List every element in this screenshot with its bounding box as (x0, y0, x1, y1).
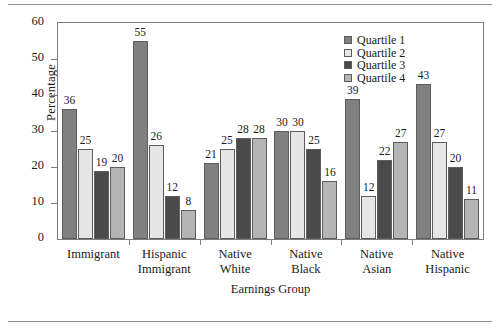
bar-value-label: 11 (466, 184, 477, 196)
bar-value-label: 21 (205, 148, 217, 160)
bar: 27 (393, 142, 408, 239)
bar: 28 (236, 138, 251, 239)
legend-swatch-icon (344, 61, 352, 69)
bar-value-label: 20 (112, 152, 124, 164)
bar: 36 (62, 109, 77, 239)
bar: 20 (448, 167, 463, 239)
x-tick-mark (271, 240, 272, 245)
bar: 39 (345, 99, 360, 239)
bar: 26 (149, 145, 164, 239)
bar: 43 (416, 84, 431, 239)
bar-value-label: 27 (395, 127, 407, 139)
bar: 25 (78, 149, 93, 239)
bar-value-label: 27 (434, 127, 446, 139)
bar: 16 (322, 181, 337, 239)
bar-value-label: 36 (64, 94, 76, 106)
top-rule (8, 4, 492, 5)
bar-value-label: 43 (418, 69, 430, 81)
legend-item: Quartile 3 (344, 59, 405, 72)
bar: 8 (181, 210, 196, 239)
legend-swatch-icon (344, 36, 352, 44)
bottom-rule (8, 321, 492, 322)
bar: 11 (464, 199, 479, 239)
bar: 27 (432, 142, 447, 239)
legend-item: Quartile 4 (344, 72, 405, 85)
y-tick-label: 40 (32, 86, 45, 101)
bar: 25 (220, 149, 235, 239)
bar-group: 36251920 (62, 23, 125, 239)
bar: 12 (165, 196, 180, 239)
bar-value-label: 25 (80, 134, 92, 146)
bar: 21 (204, 163, 219, 239)
y-tick-label: 10 (32, 194, 45, 209)
bar: 55 (133, 41, 148, 239)
bar-value-label: 12 (167, 181, 179, 193)
bar-value-label: 55 (135, 26, 147, 38)
bar: 12 (361, 196, 376, 239)
bar-value-label: 28 (237, 123, 249, 135)
legend-swatch-icon (344, 74, 352, 82)
bar-value-label: 22 (379, 145, 391, 157)
bar-value-label: 19 (96, 156, 108, 168)
x-tick-label-line: Hispanic (393, 262, 500, 277)
bar: 20 (110, 167, 125, 239)
bar: 28 (252, 138, 267, 239)
bar: 30 (290, 131, 305, 239)
bar-value-label: 26 (151, 130, 163, 142)
bar-value-label: 28 (253, 123, 265, 135)
x-tick-label-line: Native (393, 247, 500, 262)
y-tick-label: 50 (32, 50, 45, 65)
bar-group: 43272011 (416, 23, 479, 239)
bar: 22 (377, 160, 392, 239)
bar-value-label: 25 (221, 134, 233, 146)
x-tick-mark (129, 240, 130, 245)
legend-label: Quartile 3 (357, 59, 405, 72)
legend-item: Quartile 1 (344, 34, 405, 47)
bar: 25 (306, 149, 321, 239)
x-tick-mark (341, 240, 342, 245)
bar-value-label: 25 (308, 134, 320, 146)
bar-value-label: 30 (276, 116, 288, 128)
x-tick-mark (412, 240, 413, 245)
bar-value-label: 39 (347, 84, 359, 96)
y-tick-label: 60 (32, 14, 45, 29)
x-tick-mark (200, 240, 201, 245)
bar-value-label: 30 (292, 116, 304, 128)
bar-group: 5526128 (133, 23, 196, 239)
bar: 30 (274, 131, 289, 239)
y-tick-label: 0 (38, 230, 44, 245)
bar-value-label: 8 (185, 195, 191, 207)
figure: Percentage 0102030405060 362519205526128… (0, 0, 500, 329)
y-tick-label: 20 (32, 158, 45, 173)
bar: 19 (94, 171, 109, 239)
y-tick-label: 30 (32, 122, 45, 137)
bar-group: 30302516 (274, 23, 337, 239)
bar-value-label: 16 (324, 166, 336, 178)
legend-label: Quartile 1 (357, 34, 405, 47)
bar-value-label: 20 (450, 152, 462, 164)
x-axis-title: Earnings Group (57, 282, 484, 297)
x-tick-label: NativeHispanic (393, 247, 500, 276)
bars-area: 3625192055261282125282830302516391222274… (58, 23, 483, 239)
legend-label: Quartile 4 (357, 72, 405, 85)
bar-group: 21252828 (204, 23, 267, 239)
legend-swatch-icon (344, 49, 352, 57)
legend: Quartile 1Quartile 2Quartile 3Quartile 4 (344, 34, 405, 84)
bar-value-label: 12 (363, 181, 375, 193)
